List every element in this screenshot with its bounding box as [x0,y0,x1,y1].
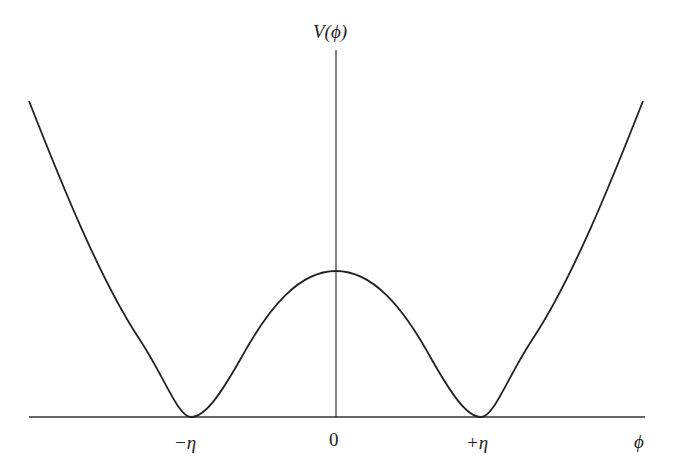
tick-label-zero: 0 [329,430,339,449]
potential-plot [0,0,679,468]
tick-label-pos-eta: +η [466,433,488,452]
x-axis-label: ϕ [634,432,644,451]
y-axis-label: V(ϕ) [313,22,347,41]
double-well-potential-figure: V(ϕ) −η 0 +η ϕ [0,0,679,468]
tick-label-neg-eta: −η [174,433,196,452]
